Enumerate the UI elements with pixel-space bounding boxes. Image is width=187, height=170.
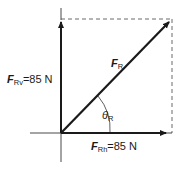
- force-diagram: FR FRv=85 N FRh=85 N θR: [0, 0, 187, 170]
- angle-label: θR: [102, 109, 114, 123]
- vertical-component-label: FRv=85 N: [7, 73, 53, 87]
- resultant-vector: [61, 22, 169, 133]
- horizontal-component-label: FRh=85 N: [91, 140, 137, 154]
- resultant-label: FR: [111, 57, 124, 71]
